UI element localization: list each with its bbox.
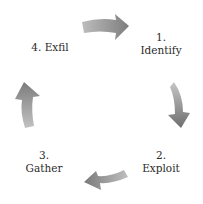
cycle-diagram: 1. Identify 2. Exploit 3. Gather 4. Exfi… [0, 0, 203, 204]
step-number: 1. [136, 31, 186, 44]
step-label: Exploit [136, 162, 186, 175]
step-number: 3. [19, 149, 69, 162]
step-label: Gather [19, 162, 69, 175]
step-identify: 1. Identify [136, 31, 186, 57]
step-number: 2. [136, 149, 186, 162]
step-label: Identify [136, 44, 186, 57]
step-gather: 3. Gather [19, 149, 69, 175]
arrow-left-icon [84, 170, 128, 190]
step-number: 4. [31, 41, 41, 53]
arrow-down-icon [168, 82, 190, 128]
arrow-right-icon [82, 14, 129, 40]
step-full-label: 4. Exfil [22, 41, 78, 54]
arrow-up-icon [15, 82, 40, 128]
step-exploit: 2. Exploit [136, 149, 186, 175]
step-exfil: 4. Exfil [22, 41, 78, 54]
step-label: Exfil [45, 41, 69, 53]
